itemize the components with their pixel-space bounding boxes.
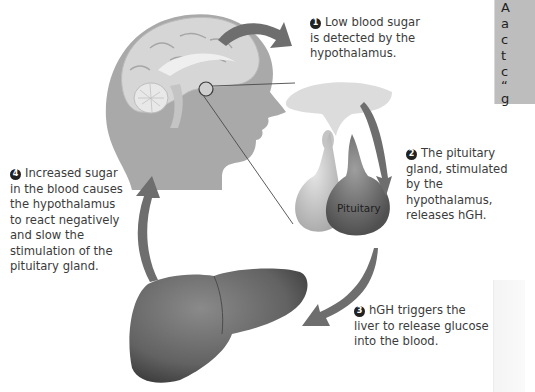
adjacent-panel (493, 280, 525, 392)
pituitary-label: Pituitary (337, 202, 381, 214)
side-note-text: a (501, 16, 509, 31)
step-number-badge: 2 (406, 149, 417, 160)
side-note-text: t (501, 48, 506, 63)
side-note-box: A a c t c “ g (494, 0, 535, 104)
head-illustration (106, 14, 295, 224)
step-number-badge: 1 (310, 18, 321, 29)
liver-illustration (129, 269, 307, 383)
step-number-badge: 4 (10, 169, 21, 180)
step-1-caption: 1Low blood sugar is detected by the hypo… (310, 15, 420, 62)
side-note-text: c (501, 32, 508, 47)
side-note-text: A (501, 0, 510, 15)
arrow-step4 (136, 176, 160, 282)
step-number-badge: 3 (354, 306, 365, 317)
step-3-caption: 3hGH triggers the liver to release gluco… (354, 303, 489, 350)
step-2-caption: 2The pituitary gland, stimulated by the … (406, 146, 524, 224)
side-note-text: g (501, 91, 509, 106)
step-4-caption: 4Increased sugar in the blood causes the… (10, 166, 123, 275)
side-note-text: c (501, 64, 508, 79)
